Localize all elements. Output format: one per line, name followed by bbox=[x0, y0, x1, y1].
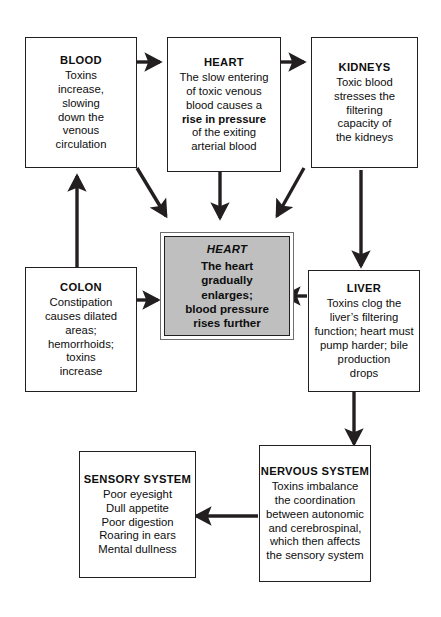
node-blood[interactable]: BLOOD Toxins increase, slowing down the … bbox=[25, 37, 137, 168]
node-colon[interactable]: COLON Constipation causes dilated areas;… bbox=[25, 267, 137, 392]
node-sensory-system[interactable]: SENSORY SYSTEM Poor eyesight Dull appeti… bbox=[79, 451, 196, 578]
node-heart-top-body: The slow entering of toxic venous blood … bbox=[176, 71, 271, 154]
node-kidneys-body: Toxic blood stresses the filtering capac… bbox=[331, 76, 398, 145]
node-kidneys[interactable]: KIDNEYS Toxic blood stresses the filteri… bbox=[311, 37, 418, 168]
node-liver-title: LIVER bbox=[347, 281, 381, 295]
node-nervous-system[interactable]: NERVOUS SYSTEM Toxins imbalance the coor… bbox=[259, 445, 371, 582]
arrow-kidneys-to-heart-center bbox=[277, 168, 304, 216]
node-heart-top-body-emphasis: rise in pressure bbox=[182, 113, 266, 125]
node-nervous-system-body: Toxins imbalance the coordination betwee… bbox=[263, 480, 367, 563]
arrow-blood-to-heart-center bbox=[137, 168, 166, 216]
node-heart-top[interactable]: HEART The slow entering of toxic venous … bbox=[167, 37, 281, 172]
node-heart-center-panel: HEART The heart gradually enlarges; bloo… bbox=[164, 236, 290, 336]
node-liver[interactable]: LIVER Toxins clog the liver’s filtering … bbox=[308, 270, 420, 392]
flowchart-canvas: BLOOD Toxins increase, slowing down the … bbox=[0, 0, 441, 617]
node-colon-title: COLON bbox=[60, 280, 102, 294]
node-heart-top-body-post: of the exiting arterial blood bbox=[191, 126, 256, 152]
node-kidneys-title: KIDNEYS bbox=[339, 60, 391, 74]
node-sensory-system-body: Poor eyesight Dull appetite Poor digesti… bbox=[95, 488, 180, 557]
node-nervous-system-title: NERVOUS SYSTEM bbox=[261, 464, 369, 478]
node-heart-center[interactable]: HEART The heart gradually enlarges; bloo… bbox=[160, 232, 294, 340]
node-colon-body: Constipation causes dilated areas; hemor… bbox=[42, 296, 120, 379]
node-blood-body: Toxins increase, slowing down the venous… bbox=[53, 69, 110, 152]
node-heart-center-body: The heart gradually enlarges; blood pres… bbox=[182, 259, 272, 330]
node-blood-title: BLOOD bbox=[60, 53, 102, 67]
node-heart-top-title: HEART bbox=[204, 55, 244, 69]
node-heart-top-body-pre: The slow entering of toxic venous blood … bbox=[179, 71, 268, 111]
node-heart-center-title: HEART bbox=[207, 242, 248, 256]
node-liver-body: Toxins clog the liver’s filtering functi… bbox=[311, 297, 416, 380]
node-sensory-system-title: SENSORY SYSTEM bbox=[84, 472, 191, 486]
